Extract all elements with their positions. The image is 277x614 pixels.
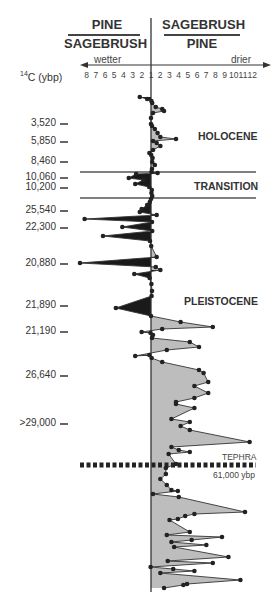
data-point: [158, 268, 163, 273]
data-point: [176, 495, 181, 500]
data-point: [178, 320, 183, 325]
sagebrush-fill: [151, 497, 245, 512]
y-tick-label: 21,190: [0, 325, 56, 336]
data-point: [165, 483, 170, 488]
data-point: [220, 535, 225, 540]
data-point: [150, 156, 155, 161]
x-axis-right-arrowhead: [263, 62, 271, 68]
zone-label-pleistocene: PLEISTOCENE: [184, 295, 258, 307]
data-point: [149, 294, 154, 299]
y-axis-ticks: [60, 124, 68, 424]
tephra-date-label: 61,000 ybp: [213, 470, 255, 480]
data-point: [192, 396, 197, 401]
y-axis-label-text: C (ybp): [28, 71, 62, 83]
data-point: [150, 229, 155, 234]
drier-label: drier: [231, 54, 251, 65]
data-point: [165, 348, 170, 353]
data-point: [148, 239, 153, 244]
data-point: [82, 217, 87, 222]
data-point: [169, 417, 174, 422]
data-point: [165, 533, 170, 538]
y-tick-label: 26,640: [0, 369, 56, 380]
data-point: [139, 330, 144, 335]
tephra-label: TEPHRA: [222, 452, 256, 462]
data-point: [169, 445, 174, 450]
y-tick-label: 5,850: [0, 135, 56, 146]
data-point: [188, 530, 193, 535]
sagebrush-fill: [151, 402, 176, 404]
data-point: [153, 265, 158, 270]
data-point: [151, 148, 156, 153]
data-point: [158, 571, 163, 576]
data-point: [153, 127, 158, 132]
y-tick-label: 20,880: [0, 257, 56, 268]
data-point: [78, 261, 83, 266]
data-point: [149, 116, 154, 121]
data-point: [158, 144, 163, 149]
data-point: [188, 340, 193, 345]
y-tick-label: 8,460: [0, 155, 56, 166]
y-tick-label: 25,540: [0, 204, 56, 215]
data-point: [134, 172, 139, 177]
data-point: [114, 306, 119, 311]
data-point: [171, 567, 176, 572]
data-point: [126, 176, 131, 181]
data-point: [132, 272, 137, 277]
data-point: [201, 371, 206, 376]
data-point: [211, 325, 216, 330]
data-point: [166, 452, 171, 457]
sagebrush-fill: [151, 422, 190, 426]
data-point: [150, 336, 155, 341]
data-point: [101, 234, 106, 239]
data-point: [243, 510, 248, 515]
x-tick-right-12: 12: [247, 70, 257, 80]
data-point: [145, 203, 150, 208]
y-tick-label: 21,890: [0, 299, 56, 310]
sagebrush-fill: [151, 386, 208, 393]
data-point: [192, 384, 197, 389]
data-point: [148, 565, 153, 570]
sagebrush-fill: [151, 547, 228, 557]
data-point: [188, 428, 193, 433]
right-header-denominator: PINE: [162, 36, 242, 51]
sagebrush-fill: [151, 398, 194, 402]
data-point: [145, 97, 150, 102]
data-point: [153, 105, 158, 110]
data-point: [183, 514, 188, 519]
sagebrush-fill: [151, 468, 166, 474]
x-axis-left-arrowhead: [80, 62, 88, 68]
y-axis-label: 14C (ybp): [20, 70, 62, 83]
data-point: [133, 182, 138, 187]
right-header-numerator: SAGEBRUSH: [162, 17, 242, 32]
sagebrush-fill: [151, 373, 208, 382]
data-point: [211, 561, 216, 566]
left-header-numerator: PINE: [74, 17, 140, 32]
data-point: [149, 282, 154, 287]
data-point: [154, 213, 159, 218]
data-point: [169, 488, 174, 493]
data-point: [141, 178, 146, 183]
data-point: [165, 559, 170, 564]
data-point: [158, 135, 163, 140]
data-point: [192, 406, 197, 411]
wetter-label: wetter: [94, 54, 121, 65]
data-point: [176, 448, 181, 453]
sagebrush-fill: [151, 382, 208, 386]
zone-label-transition: TRANSITION: [194, 180, 258, 192]
sagebrush-fill: [151, 404, 194, 408]
data-point: [138, 95, 143, 100]
data-point: [155, 171, 160, 176]
data-point: [188, 420, 193, 425]
sagebrush-fill: [151, 393, 208, 398]
data-point: [238, 578, 243, 583]
data-point: [192, 569, 197, 574]
zone-label-holocene: HOLOCENE: [198, 130, 258, 142]
data-point: [160, 327, 165, 332]
data-point: [197, 345, 202, 350]
data-point: [151, 492, 156, 497]
data-point: [192, 512, 197, 517]
data-point: [176, 489, 181, 494]
y-tick-label: >29,000: [0, 417, 56, 428]
data-point: [188, 450, 193, 455]
y-axis-label-superscript: 14: [20, 70, 28, 77]
